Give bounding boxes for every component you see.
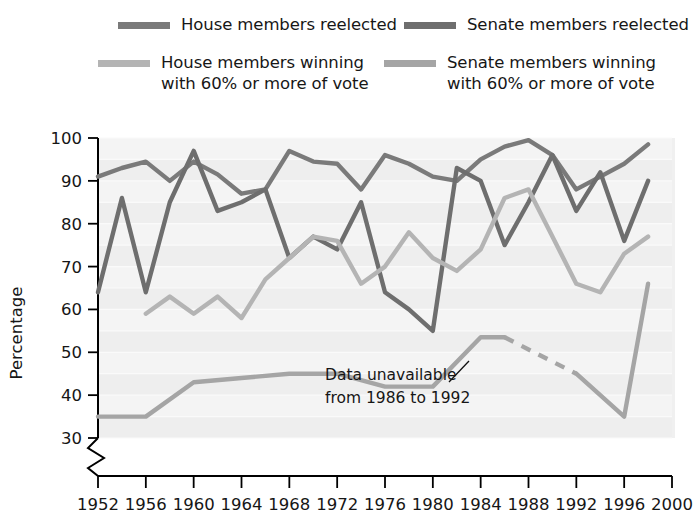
- grid-band: [98, 417, 672, 438]
- x-tick-label: 1960: [173, 495, 215, 513]
- grid-band: [98, 224, 672, 245]
- legend-item-senate-60-percent: Senate members winning with 60% or more …: [384, 52, 656, 94]
- annotation-line-1: Data unavailable: [325, 366, 457, 384]
- x-tick-label: 1968: [268, 495, 310, 513]
- x-tick-label: 1976: [364, 495, 406, 513]
- x-tick-label: 1988: [508, 495, 550, 513]
- x-tick-label: 1972: [316, 495, 358, 513]
- x-tick-label: 1984: [460, 495, 502, 513]
- grid-band: [98, 309, 672, 330]
- x-tick-label: 1980: [412, 495, 454, 513]
- x-tick-label: 1964: [221, 495, 263, 513]
- line-chart: 30405060708090100 1952195619601964196819…: [0, 118, 698, 513]
- chart-legend: House members reelected House members wi…: [0, 0, 698, 118]
- legend-label-house-60-percent: House members winning with 60% or more o…: [161, 52, 369, 94]
- legend-item-house-reelected: House members reelected: [118, 14, 397, 35]
- legend-swatch-senate-60-percent: [384, 60, 436, 67]
- grid-band: [98, 331, 672, 352]
- legend-label-senate-60-percent: Senate members winning with 60% or more …: [447, 52, 656, 94]
- x-tick-label: 1996: [603, 495, 645, 513]
- y-tick-label: 70: [61, 258, 82, 277]
- legend-swatch-house-60-percent: [98, 60, 150, 67]
- y-axis-break-symbol: [88, 438, 104, 476]
- x-tick-label: 1992: [555, 495, 597, 513]
- y-axis-title: Percentage: [7, 287, 26, 380]
- chart-canvas: 30405060708090100 1952195619601964196819…: [0, 118, 698, 513]
- grid-band: [98, 202, 672, 223]
- y-tick-label: 80: [61, 215, 82, 234]
- legend-swatch-senate-reelected: [404, 22, 456, 29]
- y-axis-ticks: 30405060708090100: [51, 129, 99, 448]
- x-axis-ticks: 1952195619601964196819721976198019841988…: [77, 476, 693, 513]
- legend-label-senate-reelected: Senate members reelected: [467, 14, 689, 35]
- y-tick-label: 60: [61, 300, 82, 319]
- y-tick-label: 100: [51, 129, 83, 148]
- y-tick-label: 50: [61, 343, 82, 362]
- y-tick-label: 90: [61, 172, 82, 191]
- x-tick-label: 1952: [77, 495, 119, 513]
- y-tick-label: 40: [61, 386, 82, 405]
- legend-label-house-reelected: House members reelected: [181, 14, 397, 35]
- annotation-line-2: from 1986 to 1992: [325, 389, 470, 407]
- legend-item-house-60-percent: House members winning with 60% or more o…: [98, 52, 369, 94]
- y-tick-label: 30: [61, 429, 82, 448]
- legend-swatch-house-reelected: [118, 22, 170, 29]
- legend-item-senate-reelected: Senate members reelected: [404, 14, 689, 35]
- x-tick-label: 1956: [125, 495, 167, 513]
- x-tick-label: 2000: [651, 495, 693, 513]
